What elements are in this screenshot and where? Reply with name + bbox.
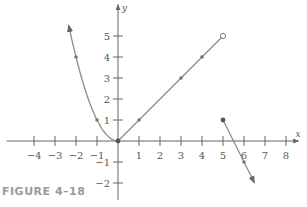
y-tick-label: 5	[104, 31, 110, 42]
closed-endpoint	[221, 118, 226, 123]
y-axis-label: y	[121, 3, 128, 13]
y-tick-label: −1	[95, 157, 110, 168]
x-tick-label: −3	[48, 150, 63, 161]
y-tick-label: 1	[104, 115, 110, 126]
x-tick-label: 7	[262, 150, 268, 161]
x-tick-label: 4	[199, 150, 205, 161]
x-tick-label: 1	[136, 150, 142, 161]
open-endpoint	[220, 33, 225, 38]
data-point	[74, 55, 78, 59]
x-tick-label: 3	[178, 150, 184, 161]
data-point	[179, 76, 183, 80]
x-tick-label: 6	[241, 150, 247, 161]
data-point	[200, 55, 204, 59]
axes: xy−4−3−2−112345678−2−112345	[7, 3, 301, 200]
y-tick-label: 3	[104, 73, 110, 84]
figure-caption: FIGURE 4–18	[2, 185, 85, 198]
linear-segment	[118, 36, 223, 141]
function-graph: xy−4−3−2−112345678−2−112345	[0, 0, 307, 207]
closed-endpoint	[116, 139, 121, 144]
data-point	[137, 118, 141, 122]
y-tick-label: 4	[104, 52, 110, 63]
x-tick-label: 8	[283, 150, 289, 161]
x-tick-label: −4	[27, 150, 42, 161]
data-point	[95, 118, 99, 122]
y-tick-label: 2	[104, 94, 110, 105]
y-tick-label: −2	[95, 178, 110, 189]
descending-ray	[223, 120, 255, 183]
x-axis-label: x	[296, 129, 301, 139]
x-tick-label: 2	[157, 150, 163, 161]
x-tick-label: −2	[69, 150, 84, 161]
parabola-curve	[69, 25, 118, 141]
data-point	[242, 160, 246, 164]
x-tick-label: 5	[220, 150, 226, 161]
